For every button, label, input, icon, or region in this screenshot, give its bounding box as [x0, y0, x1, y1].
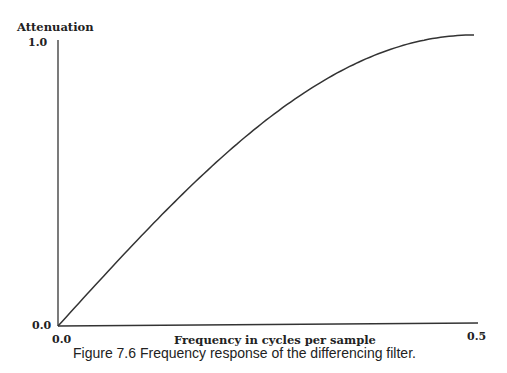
y-tick-min: 0.0 [32, 319, 51, 332]
response-curve [58, 35, 474, 326]
x-axis [58, 323, 478, 326]
y-tick-max: 1.0 [28, 36, 47, 49]
x-tick-min: 0.0 [52, 333, 71, 346]
figure-caption: Figure 7.6 Frequency response of the dif… [73, 345, 416, 361]
chart-plot [0, 0, 507, 373]
y-axis-label: Attenuation [17, 20, 94, 34]
x-tick-max: 0.5 [467, 330, 486, 343]
